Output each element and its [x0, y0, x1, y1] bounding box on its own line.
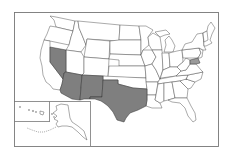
state-south-dakota — [110, 40, 141, 55]
inset-frame — [15, 102, 91, 147]
state-nebraska — [109, 54, 145, 66]
state-florida — [168, 98, 196, 122]
state-arizona — [60, 72, 82, 100]
state-kansas — [108, 66, 146, 78]
state-wyoming — [84, 39, 110, 59]
state-maryland — [190, 58, 200, 64]
state-utah — [66, 50, 84, 75]
inset-alaska-hawaii — [15, 102, 91, 147]
state-colorado — [82, 57, 109, 77]
us-map — [0, 0, 234, 158]
state-vermont-nh — [203, 31, 208, 42]
state-new-mexico — [80, 75, 103, 100]
state-new-york — [182, 33, 206, 50]
state-north-dakota — [119, 25, 141, 40]
